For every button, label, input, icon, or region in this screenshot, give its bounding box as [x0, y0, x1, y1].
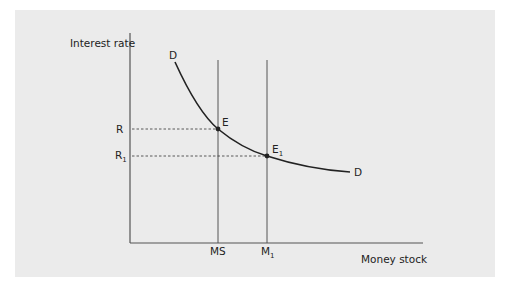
demand-label-end: D [354, 166, 362, 178]
supply-label-ms: MS [210, 245, 226, 257]
rate-label-r: R [116, 123, 123, 135]
equilibrium-point-e1 [265, 154, 270, 159]
money-market-diagram: Interest rate Money stock D D R R1 E E1 … [0, 0, 505, 290]
x-axis-label: Money stock [361, 253, 428, 265]
equilibrium-point-e [216, 127, 221, 132]
y-axis-label: Interest rate [70, 37, 135, 49]
demand-curve [175, 62, 350, 172]
point-label-e1: E1 [272, 143, 283, 158]
rate-label-r1: R1 [115, 149, 127, 164]
point-label-e: E [222, 116, 229, 128]
demand-label-top: D [169, 49, 177, 61]
supply-label-m1: M1 [261, 245, 275, 260]
